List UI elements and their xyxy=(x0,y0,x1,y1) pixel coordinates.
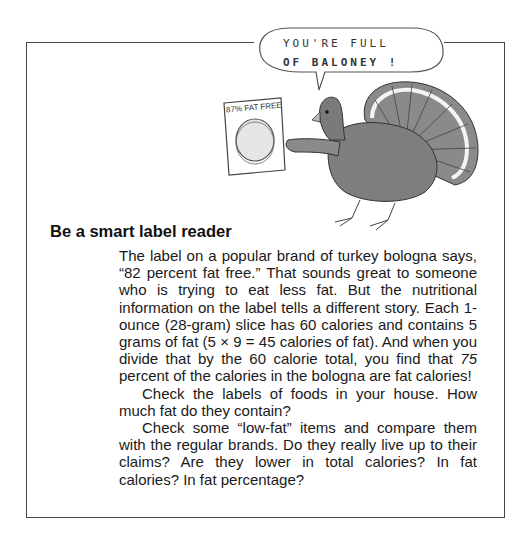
emphasis-number: 75 xyxy=(460,350,477,367)
paragraph: Check the labels of foods in your house.… xyxy=(119,385,477,419)
speech-bubble-line: OF BALONEY ! xyxy=(283,53,398,72)
section-heading: Be a smart label reader xyxy=(50,222,232,241)
paragraph: Check some “low-fat” items and compare t… xyxy=(119,419,477,488)
article-body: The label on a popular brand of turkey b… xyxy=(119,247,477,488)
speech-bubble-line: YOU'RE FULL xyxy=(283,34,398,53)
paragraph: The label on a popular brand of turkey b… xyxy=(119,247,477,385)
turkey-cartoon-illustration xyxy=(0,0,530,260)
speech-bubble-text: YOU'RE FULL OF BALONEY ! xyxy=(283,34,398,72)
